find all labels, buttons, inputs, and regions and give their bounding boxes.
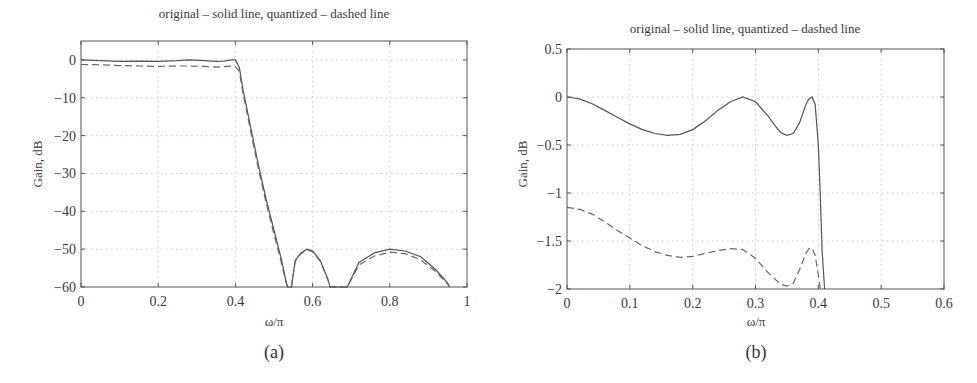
x-tick-label: 0 (564, 296, 571, 311)
x-tick-label: 0.2 (149, 294, 167, 309)
chart-a-grid (81, 41, 467, 287)
chart-a-ylabel: Gain, dB (30, 140, 45, 187)
x-tick-label: 0.4 (227, 294, 245, 309)
y-tick-label: 0 (555, 90, 562, 105)
chart-b-ylabel: Gain, dB (515, 140, 530, 187)
chart-b: 00.10.20.30.40.50.60.50−0.5−1−1.5−2 orig… (515, 21, 953, 363)
chart-b-series (567, 97, 825, 289)
x-tick-label: 0.1 (621, 296, 639, 311)
x-tick-label: 0.2 (684, 296, 702, 311)
y-tick-label: −2 (547, 282, 562, 297)
chart-a-caption: (a) (264, 342, 284, 363)
chart-a-plot-frame (81, 41, 467, 287)
chart-a-xlabel: ω/π (265, 314, 284, 329)
y-tick-label: −10 (54, 91, 76, 106)
chart-b-ticks: 00.10.20.30.40.50.60.50−0.5−1−1.5−2 (537, 42, 953, 311)
y-tick-label: −40 (54, 204, 76, 219)
y-tick-label: −50 (54, 242, 76, 257)
chart-b-title: original – solid line, quantized – dashe… (630, 21, 861, 36)
chart-a: 00.20.40.60.810−10−20−30−40−50−60 origin… (30, 6, 471, 363)
y-tick-label: −0.5 (537, 138, 562, 153)
x-tick-label: 0.4 (810, 296, 828, 311)
figure-canvas: 00.20.40.60.810−10−20−30−40−50−60 origin… (0, 0, 977, 383)
y-tick-label: −60 (54, 280, 76, 295)
chart-a-title: original – solid line, quantized – dashe… (159, 6, 390, 21)
chart-a-ticks: 00.20.40.60.810−10−20−30−40−50−60 (54, 41, 470, 309)
x-tick-label: 1 (464, 294, 471, 309)
x-tick-label: 0.6 (304, 294, 322, 309)
series-quantized (567, 207, 820, 289)
x-tick-label: 0.5 (872, 296, 890, 311)
chart-b-grid (567, 49, 944, 289)
y-tick-label: 0 (69, 53, 76, 68)
x-tick-label: 0 (78, 294, 85, 309)
x-tick-label: 0.8 (381, 294, 399, 309)
y-tick-label: −30 (54, 166, 76, 181)
y-tick-label: −1 (547, 186, 562, 201)
chart-b-caption: (b) (746, 342, 767, 363)
y-tick-label: 0.5 (545, 42, 563, 57)
chart-b-xlabel: ω/π (747, 314, 766, 329)
y-tick-label: −1.5 (537, 234, 562, 249)
x-tick-label: 0.6 (935, 296, 953, 311)
x-tick-label: 0.3 (747, 296, 765, 311)
y-tick-label: −20 (54, 129, 76, 144)
series-original (567, 97, 825, 289)
